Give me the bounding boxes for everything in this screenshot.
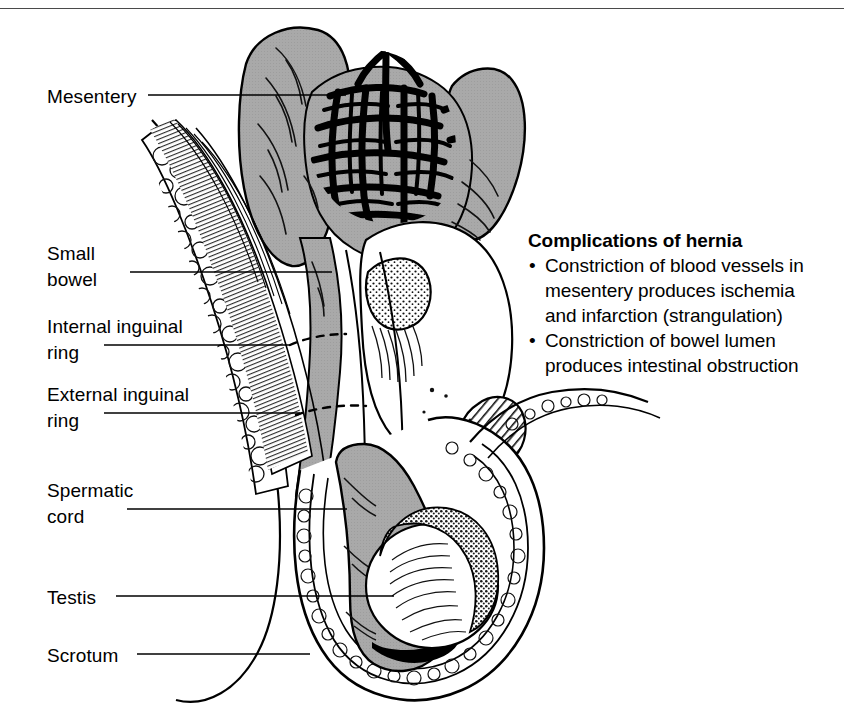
note-item-text: Constriction of bowel lumen produces int… — [545, 330, 799, 376]
callout-label-internal-ring: Internal inguinal ring — [47, 314, 183, 366]
note-item-list: •Constriction of blood vessels in mesent… — [528, 253, 828, 378]
callout-label-testis: Testis — [47, 585, 96, 611]
bullet-icon: • — [529, 253, 536, 278]
figure-page: MesenterySmall bowelInternal inguinal ri… — [0, 0, 844, 718]
note-item: •Constriction of blood vessels in mesent… — [528, 253, 828, 328]
note-item: •Constriction of bowel lumen produces in… — [528, 328, 828, 378]
pubic-bone-upper — [366, 258, 431, 329]
note-item-text: Constriction of blood vessels in mesente… — [545, 255, 804, 326]
callout-label-mesentery: Mesentery — [47, 84, 137, 110]
callout-label-spermatic-cord: Spermatic cord — [47, 478, 133, 530]
callout-label-external-ring: External inguinal ring — [47, 382, 189, 434]
bullet-icon: • — [529, 328, 536, 353]
note-title: Complications of hernia — [528, 228, 828, 253]
callout-label-small-bowel: Small bowel — [47, 241, 97, 293]
complications-note-box: Complications of hernia •Constriction of… — [528, 228, 828, 378]
callout-label-scrotum: Scrotum — [47, 643, 118, 669]
